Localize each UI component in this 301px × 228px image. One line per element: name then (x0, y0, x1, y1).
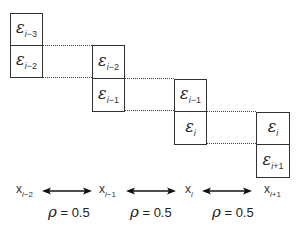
dotted-connector (42, 45, 92, 46)
epsilon-label: εi (185, 119, 196, 138)
double-arrow-icon (42, 186, 92, 196)
error-cell: εi (256, 112, 290, 145)
error-cell: εi+1 (256, 144, 290, 178)
correlation-label: ρ = 0.5 (48, 203, 90, 221)
x-label: xi (185, 182, 193, 199)
error-cell: εi−2 (10, 45, 43, 78)
error-cell: εi−3 (10, 13, 43, 46)
double-arrow-icon (126, 186, 176, 196)
double-arrow-icon (202, 186, 252, 196)
epsilon-label: εi−2 (16, 52, 37, 71)
epsilon-label: εi+1 (263, 152, 284, 171)
error-cell: εi−2 (92, 45, 125, 79)
dotted-connector (124, 110, 174, 111)
error-cell: εi (174, 111, 207, 145)
error-cell: εi−1 (92, 78, 125, 112)
epsilon-label: εi−1 (180, 86, 201, 105)
x-label: xi+1 (264, 182, 281, 199)
epsilon-label: εi−3 (16, 20, 37, 39)
epsilon-label: εi (268, 119, 279, 138)
x-label: xi−1 (99, 182, 116, 199)
dotted-connector (206, 143, 256, 144)
epsilon-label: εi−2 (98, 53, 119, 72)
error-cell: εi−1 (174, 79, 207, 112)
epsilon-label: εi−1 (98, 86, 119, 105)
dotted-connector (124, 78, 174, 79)
dotted-connector (42, 77, 92, 78)
correlation-label: ρ = 0.5 (212, 203, 254, 221)
x-label: xi−2 (16, 182, 33, 199)
correlation-label: ρ = 0.5 (130, 203, 172, 221)
dotted-connector (206, 111, 256, 112)
